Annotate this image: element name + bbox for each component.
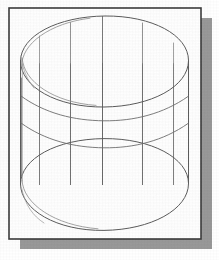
paper-grain-overlay xyxy=(10,9,200,238)
figure-root: isometric wireframe cylinder isometric /… xyxy=(0,0,219,260)
cylinder-figure-svg xyxy=(0,0,219,260)
